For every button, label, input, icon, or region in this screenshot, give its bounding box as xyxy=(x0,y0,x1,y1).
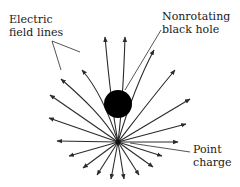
label-line: charge xyxy=(193,156,232,169)
label-nonrotating-black-hole: Nonrotating black hole xyxy=(162,10,230,36)
black-hole xyxy=(104,90,132,118)
field-line xyxy=(57,141,118,142)
label-line: field lines xyxy=(9,26,63,39)
label-line: Electric xyxy=(9,13,63,26)
field-line xyxy=(49,118,118,142)
leader-black-hole xyxy=(125,30,161,90)
leader-point-charge xyxy=(130,143,190,152)
label-line: Point xyxy=(193,143,232,156)
label-line: black hole xyxy=(162,23,230,36)
leader-field-lines-2 xyxy=(52,41,61,70)
label-point-charge: Point charge xyxy=(193,143,232,169)
field-line xyxy=(118,124,186,142)
label-electric-field-lines: Electric field lines xyxy=(9,13,63,39)
label-line: Nonrotating xyxy=(162,10,230,23)
field-line xyxy=(118,37,125,142)
leader-field-lines-1 xyxy=(52,41,80,52)
field-line xyxy=(83,142,118,168)
point-charge xyxy=(116,140,121,145)
